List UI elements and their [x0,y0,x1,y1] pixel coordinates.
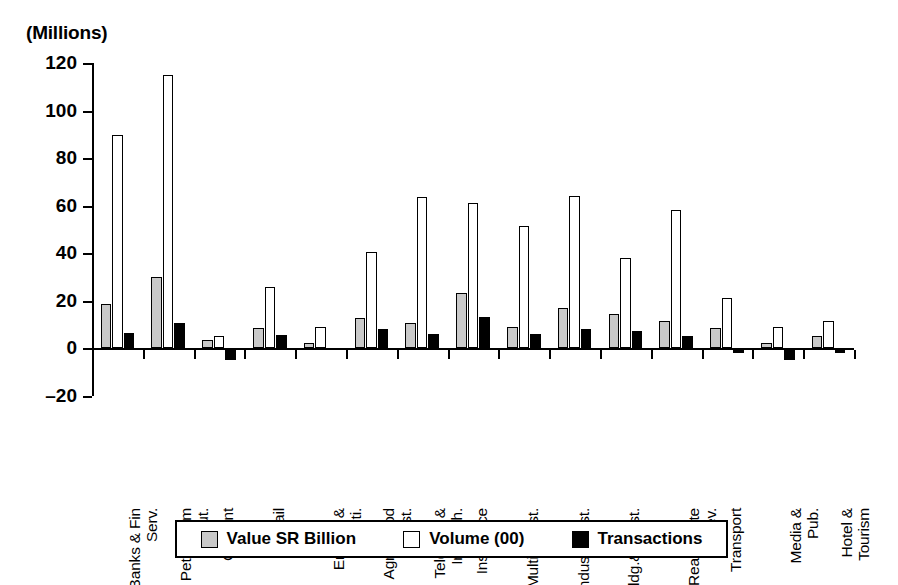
bar-volume [265,287,276,348]
bar-value [558,308,569,348]
bar-group [143,63,194,396]
y-axis-tick: 0 [83,348,92,350]
y-axis-tick-label: –20 [45,384,77,406]
bar-trans [276,335,287,348]
y-axis-tick: 40 [83,253,92,255]
x-axis-label-line: Tourism [855,508,872,561]
y-axis-tick-label: 20 [56,289,77,311]
bar-trans [479,317,490,348]
legend-label: Transactions [598,529,703,549]
x-axis-label-line: Media & [787,508,804,563]
x-axis-label: Transport [727,508,744,572]
bar-group [651,63,702,396]
bar-value [304,343,315,348]
bar-group [295,63,346,396]
bar-value [710,328,721,348]
bar-value [456,293,467,348]
bar-value [761,343,772,348]
bar-volume [417,197,428,348]
bar-volume [163,75,174,348]
y-axis-units-label: (Millions) [26,22,107,44]
bar-group [752,63,803,396]
legend-swatch-volume [403,531,420,548]
y-axis-tick: 120 [83,63,92,65]
bar-trans [327,348,338,350]
legend-label: Volume (00) [429,529,524,549]
x-axis-label-line: Serv. [143,508,160,585]
y-axis-tick-label: 120 [45,52,77,74]
bar-group [702,63,753,396]
y-axis-tick-label: 80 [56,147,77,169]
legend-item[interactable]: Transactions [572,529,703,549]
bar-volume [315,327,326,348]
bar-group [498,63,549,396]
bar-trans [378,329,389,348]
bar-value [253,328,264,348]
bar-value [151,277,162,348]
bar-volume [112,135,123,348]
bar-trans [428,334,439,348]
bar-group [346,63,397,396]
bar-group [92,63,143,396]
bar-value [405,323,416,348]
legend-swatch-trans [572,531,589,548]
bar-group [600,63,651,396]
bar-trans [225,348,236,360]
x-axis-label-line: Banks & Fin [126,508,143,585]
bar-volume [366,252,377,348]
bar-value [355,318,366,348]
legend-item[interactable]: Value SR Billion [201,529,356,549]
bar-trans [733,348,744,353]
y-axis-tick: 60 [83,206,92,208]
bar-volume [620,258,631,348]
bar-volume [569,196,580,348]
bar-value [101,304,112,348]
y-axis-tick: 80 [83,158,92,160]
x-axis-label: Media &Pub. [787,508,821,563]
x-axis-label-line: Transport [727,508,744,572]
bar-trans [174,323,185,348]
bar-trans [784,348,795,360]
bar-trans [682,336,693,348]
bar-trans [581,329,592,348]
x-axis-label-line: Hotel & [838,508,855,561]
legend-swatch-value [201,531,218,548]
y-axis-tick: 20 [83,301,92,303]
bar-value [609,314,620,348]
bar-volume [823,321,834,348]
bar-volume [519,226,530,348]
bar-value [507,327,518,348]
x-axis-labels: Banks & FinServ.PetrochemIndsut.CementRe… [92,360,854,510]
legend-label: Value SR Billion [227,529,356,549]
bar-volume [671,210,682,348]
bar-group [448,63,499,396]
bar-trans [835,348,846,353]
bar-volume [468,203,479,348]
y-axis-tick-label: 100 [45,99,77,121]
bar-group [194,63,245,396]
bar-value [812,336,823,348]
bar-trans [530,334,541,348]
bar-group [397,63,448,396]
y-axis-tick-label: 40 [56,242,77,264]
x-axis-label: Hotel &Tourism [838,508,872,561]
bar-trans [124,333,135,348]
bar-group [549,63,600,396]
x-axis-label: Banks & FinServ. [126,508,160,585]
chart-legend: Value SR BillionVolume (00)Transactions [175,520,728,558]
y-axis-tick: 100 [83,111,92,113]
bar-volume [722,298,733,348]
bar-trans [632,331,643,348]
bar-volume [214,336,225,348]
legend-item[interactable]: Volume (00) [403,529,524,549]
x-axis-label-line: Pub. [804,508,821,563]
bar-group [244,63,295,396]
y-axis-tick-label: 60 [56,194,77,216]
bar-volume [773,327,784,348]
bar-value [202,340,213,348]
y-axis-tick: –20 [83,396,92,398]
y-axis-tick-label: 0 [66,337,77,359]
x-axis-tick [854,350,856,359]
bar-value [659,321,670,348]
bar-group [803,63,854,396]
